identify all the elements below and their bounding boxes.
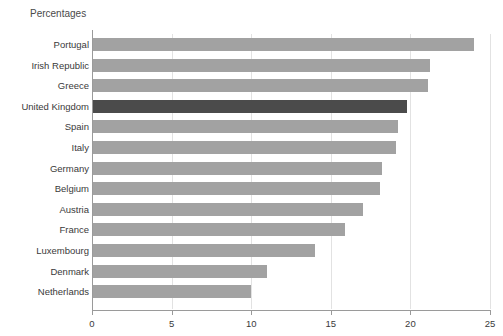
y-axis-category-label: Spain: [65, 120, 89, 133]
y-axis-category-label: Netherlands: [38, 285, 89, 298]
x-axis-tick: [331, 311, 332, 315]
y-axis-category-label: Italy: [72, 141, 89, 154]
y-axis-category-label: Luxembourg: [36, 244, 89, 257]
x-axis-tick: [410, 311, 411, 315]
chart-title: Percentages: [30, 8, 86, 19]
y-axis-category-label: United Kingdom: [21, 100, 89, 113]
y-axis-line: [92, 30, 93, 311]
x-axis-line: [92, 310, 491, 311]
y-axis-category-label: Greece: [58, 79, 89, 92]
category-label-layer: PortugalIrish RepublicGreeceUnited Kingd…: [0, 34, 503, 309]
x-axis-tick: [490, 311, 491, 315]
y-axis-category-label: Portugal: [54, 38, 89, 51]
y-axis-category-label: Austria: [59, 203, 89, 216]
y-axis-category-label: Irish Republic: [31, 59, 89, 72]
x-axis-tick: [92, 311, 93, 315]
x-axis-tick-label: 25: [485, 318, 496, 329]
x-axis-tick: [251, 311, 252, 315]
bar-chart: Percentages PortugalIrish RepublicGreece…: [0, 0, 503, 336]
y-axis-category-label: Germany: [50, 162, 89, 175]
x-axis-tick-label: 0: [89, 318, 94, 329]
y-axis-category-label: Belgium: [55, 182, 89, 195]
x-axis-tick-label: 10: [246, 318, 257, 329]
x-axis-tick-label: 20: [405, 318, 416, 329]
x-axis-tick-label: 5: [169, 318, 174, 329]
y-axis-category-label: France: [59, 223, 89, 236]
y-axis-category-label: Denmark: [50, 265, 89, 278]
x-axis-tick: [172, 311, 173, 315]
x-axis-tick-label: 15: [326, 318, 337, 329]
